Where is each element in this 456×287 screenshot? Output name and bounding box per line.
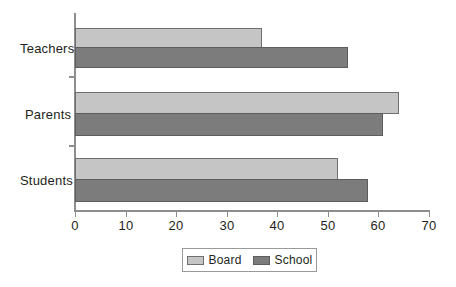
- x-axis-label-30: 30: [220, 218, 235, 233]
- bar-students-school: [75, 179, 368, 202]
- legend-swatch-board-icon: [187, 256, 204, 265]
- legend-label-school: School: [275, 253, 313, 267]
- x-axis-tick: [227, 212, 228, 217]
- bar-teachers-board: [75, 28, 262, 48]
- x-axis-label-40: 40: [270, 218, 285, 233]
- y-axis-tick: [69, 145, 75, 147]
- x-axis-label-20: 20: [169, 218, 184, 233]
- x-axis-tick: [277, 212, 278, 217]
- bar-parents-board: [75, 92, 399, 114]
- x-axis-label-10: 10: [119, 218, 134, 233]
- legend-item-board: Board: [187, 253, 242, 267]
- x-axis-tick: [126, 212, 127, 217]
- x-axis-label-50: 50: [321, 218, 336, 233]
- legend-label-board: Board: [209, 253, 242, 267]
- legend-item-school: School: [253, 253, 313, 267]
- x-axis-tick: [176, 212, 177, 217]
- x-axis-tick: [328, 212, 329, 217]
- x-axis-tick: [429, 212, 430, 217]
- x-axis-line: [74, 210, 430, 212]
- bar-students-board: [75, 158, 338, 180]
- x-axis-tick: [378, 212, 379, 217]
- bar-chart: Teachers Parents Students 0 10 20 30 40 …: [0, 0, 456, 287]
- x-axis-tick: [75, 212, 76, 217]
- y-axis-tick: [69, 76, 75, 78]
- x-axis-label-0: 0: [71, 218, 78, 233]
- x-axis-label-70: 70: [422, 218, 437, 233]
- bar-parents-school: [75, 113, 383, 136]
- bar-teachers-school: [75, 47, 348, 68]
- x-axis-label-60: 60: [371, 218, 386, 233]
- legend-swatch-school-icon: [253, 256, 270, 265]
- chart-legend: Board School: [182, 248, 317, 272]
